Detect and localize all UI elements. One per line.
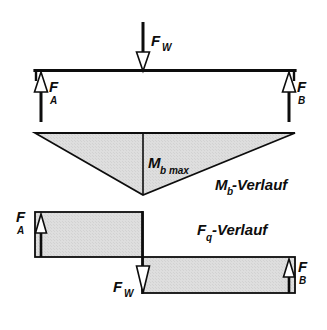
applied-load-arrow — [137, 22, 150, 71]
bending-moment-diagram: M b max M b -Verlauf — [35, 133, 295, 197]
label-shear-diagram-suffix: -Verlauf — [212, 221, 269, 238]
label-shear-diagram: F q -Verlauf — [197, 221, 269, 243]
label-moment-max-subscript: b max — [160, 165, 189, 176]
label-force-w-shear-subscript: W — [124, 288, 135, 299]
label-force-a-top-symbol: F — [49, 78, 59, 95]
shear-force-diagram: F A F W F B F q -Verlauf — [16, 208, 308, 299]
shear-block-left — [35, 212, 143, 257]
shear-block-right — [143, 257, 295, 293]
label-force-a-top-subscript: A — [49, 95, 57, 106]
label-force-a-shear-subscript: A — [16, 225, 24, 236]
label-force-b-shear-subscript: B — [299, 275, 306, 286]
label-force-b-shear-symbol: F — [298, 258, 308, 275]
beam-diagram-figure: F W F A F B M b max M b -Verlauf — [0, 0, 327, 330]
label-moment-diagram-suffix: -Verlauf — [232, 176, 289, 193]
diagram-canvas: F W F A F B M b max M b -Verlauf — [0, 0, 327, 330]
label-force-b-top-subscript: B — [298, 95, 305, 106]
label-force-b-top-symbol: F — [297, 78, 307, 95]
label-force-w-shear-symbol: F — [113, 278, 123, 295]
label-force-w-top-subscript: W — [162, 42, 173, 53]
beam-assembly: F W F A F B — [35, 22, 308, 122]
label-force-a-shear-symbol: F — [16, 208, 26, 225]
beam-member — [35, 70, 295, 81]
label-moment-diagram: M b -Verlauf — [215, 176, 289, 197]
label-force-w-top-symbol: F — [151, 32, 161, 49]
applied-load-arrowhead-down-icon — [137, 52, 150, 71]
